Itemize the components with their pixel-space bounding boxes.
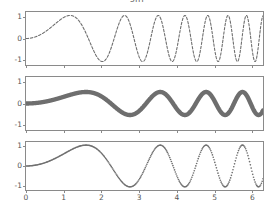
plot-area-2 (26, 142, 263, 190)
data-point-marker (174, 169, 176, 171)
data-point-marker (244, 146, 246, 148)
ytick-mark (23, 39, 26, 40)
subplot-chirp-fast-dashed: 1 0 -1 (25, 11, 264, 66)
data-point-marker (140, 175, 142, 177)
ytick-label-2-0: 1 (17, 143, 22, 151)
data-point-marker (149, 157, 151, 159)
data-point-marker (199, 153, 201, 155)
data-point-marker (216, 170, 218, 172)
data-point-marker (194, 168, 196, 170)
data-point-marker (209, 148, 211, 150)
data-point-marker (141, 173, 143, 175)
data-point-marker (219, 177, 221, 179)
xtick-mark (101, 65, 102, 68)
data-point-marker (253, 176, 255, 178)
ytick-label-1-0: 1 (17, 78, 22, 86)
data-point-marker (144, 167, 146, 169)
data-point-marker (172, 165, 174, 167)
data-point-marker (216, 167, 218, 169)
data-point-marker (212, 156, 214, 158)
data-point-marker (166, 150, 168, 152)
ytick-label-1-2: -1 (15, 121, 22, 129)
data-point-marker (250, 167, 252, 169)
xtick-mark (139, 65, 140, 68)
data-point-marker (235, 157, 237, 159)
ytick-mark (23, 17, 26, 18)
data-point-marker (151, 154, 153, 156)
ytick-mark (23, 166, 26, 167)
ytick-label-0-0: 1 (17, 13, 22, 21)
data-point-marker (177, 177, 179, 179)
data-point-marker (208, 147, 210, 149)
data-point-marker (150, 155, 152, 157)
data-point-marker (200, 151, 202, 153)
subplot-chirp-dotted-markers: 1 0 -1 0123456 (25, 141, 264, 191)
data-point-marker (235, 160, 237, 162)
xtick-mark (26, 65, 27, 68)
xtick-mark (215, 65, 216, 68)
ytick-label-2-2: -1 (15, 182, 22, 190)
xtick-mark (252, 130, 253, 133)
data-point-marker (195, 165, 197, 167)
data-point-marker (146, 163, 148, 165)
data-point-marker (198, 156, 200, 158)
data-point-marker (197, 160, 199, 162)
data-point-marker (261, 180, 263, 182)
data-point-marker (189, 182, 191, 184)
data-point-marker (254, 181, 256, 183)
data-point-marker (167, 153, 169, 155)
data-point-marker (191, 176, 193, 178)
xtick-mark (64, 65, 65, 68)
data-point-marker (233, 166, 235, 168)
xtick-label-2: 2 (99, 194, 104, 202)
ytick-mark (23, 186, 26, 187)
data-point-marker (247, 155, 249, 157)
data-point-marker (145, 165, 147, 167)
data-point-marker (262, 178, 263, 180)
ytick-mark (23, 60, 26, 61)
data-point-marker (171, 163, 173, 165)
data-point-marker (246, 152, 248, 154)
data-point-marker (210, 150, 212, 152)
data-point-marker (260, 184, 262, 186)
subplot-chirp-slow-thick-solid: 1 0 -1 (25, 76, 264, 131)
data-point-marker (214, 162, 216, 164)
data-point-marker (234, 163, 236, 165)
data-point-marker (211, 152, 213, 154)
data-point-marker (229, 179, 231, 181)
xtick-mark (26, 130, 27, 133)
data-point-marker (142, 172, 144, 174)
data-point-marker (189, 180, 191, 182)
ytick-mark (23, 104, 26, 105)
xtick-label-0: 0 (24, 194, 29, 202)
data-point-marker (193, 170, 195, 172)
ytick-mark (23, 146, 26, 147)
data-point-marker (170, 159, 172, 161)
data-point-marker (252, 174, 254, 176)
xtick-label-6: 6 (250, 194, 255, 202)
data-point-marker (261, 183, 263, 185)
data-point-marker (227, 183, 229, 185)
data-point-marker (238, 148, 240, 150)
ytick-label-0-2: -1 (15, 56, 22, 64)
data-point-marker (219, 179, 221, 181)
xtick-label-1: 1 (61, 194, 66, 202)
data-point-marker (212, 154, 214, 156)
plot-area-0 (26, 12, 263, 65)
data-point-marker (178, 180, 180, 182)
data-point-marker (190, 178, 192, 180)
data-point-marker (147, 162, 149, 164)
xtick-mark (177, 130, 178, 133)
data-point-marker (238, 150, 240, 152)
data-point-marker (144, 169, 146, 171)
data-point-marker (232, 169, 234, 171)
xtick-label-4: 4 (174, 194, 179, 202)
data-point-marker (251, 170, 253, 172)
xtick-mark (101, 130, 102, 133)
data-point-marker (201, 150, 203, 152)
data-point-marker (196, 163, 198, 165)
data-point-marker (250, 164, 252, 166)
ytick-label-1-1: 0 (17, 100, 22, 108)
xtick-mark (177, 65, 178, 68)
xtick-mark (215, 130, 216, 133)
